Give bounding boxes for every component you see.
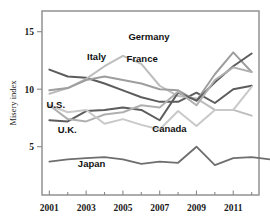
series-label-canada: Canada	[152, 123, 187, 134]
y-axis-title-text: Misery index	[8, 80, 18, 126]
series-line-canada	[49, 87, 251, 130]
series-label-germany: Germany	[128, 31, 170, 42]
y-tick-label: 15	[25, 27, 35, 37]
series-label-japan: Japan	[78, 158, 106, 169]
chart-svg: 20012003200520072009201151015 ItalyGerma…	[0, 0, 270, 224]
x-tick-label: 2011	[224, 203, 243, 213]
y-tick-label: 10	[25, 85, 35, 95]
series-label-france: France	[127, 53, 158, 64]
series-lines	[49, 52, 270, 165]
y-tick-label: 5	[29, 142, 34, 152]
x-tick-label: 2001	[40, 203, 59, 213]
series-label-us: U.S.	[47, 99, 65, 110]
y-axis-title: Misery index	[8, 80, 18, 126]
misery-index-chart: 20012003200520072009201151015 ItalyGerma…	[0, 0, 270, 224]
x-tick-label: 2003	[77, 203, 96, 213]
x-tick-label: 2007	[150, 203, 169, 213]
x-tick-label: 2009	[187, 203, 206, 213]
x-tick-label: 2005	[113, 203, 132, 213]
series-labels: ItalyGermanyFranceU.S.U.K.CanadaJapan	[47, 31, 188, 169]
series-label-uk: U.K.	[58, 124, 77, 135]
series-label-italy: Italy	[87, 51, 107, 62]
